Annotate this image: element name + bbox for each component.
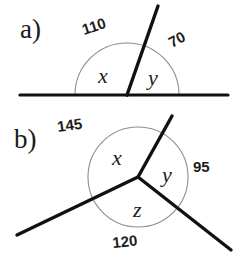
angle-variable-x-b: x xyxy=(111,145,122,170)
angle-variable-y-b: y xyxy=(160,162,172,187)
angle-variable-y-a: y xyxy=(146,65,158,90)
problem-b-label: b) xyxy=(14,124,37,154)
angle-measure-145: 145 xyxy=(56,115,83,135)
angle-variable-x-a: x xyxy=(97,63,108,88)
problem-a-group: a) x y 110 70 xyxy=(20,6,228,95)
problem-a-label: a) xyxy=(20,14,41,44)
geometry-figure-canvas: a) x y 110 70 b) x y z 145 95 120 xyxy=(0,0,246,259)
angle-variable-z-b: z xyxy=(132,197,142,222)
angle-measure-110: 110 xyxy=(80,14,108,38)
angle-measure-70: 70 xyxy=(165,28,188,51)
ray-lower-left-b xyxy=(17,177,138,235)
angle-arc-a xyxy=(75,43,179,95)
angle-measure-120: 120 xyxy=(112,231,139,251)
problem-b-group: b) x y z 145 95 120 xyxy=(14,115,231,251)
worksheet-page: a) x y 110 70 b) x y z 145 95 120 xyxy=(0,0,246,259)
angle-measure-95: 95 xyxy=(193,158,210,175)
ray-lower-right-b xyxy=(138,177,231,250)
